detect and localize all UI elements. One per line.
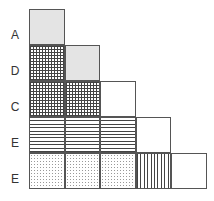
cell-c-1: [29, 81, 65, 117]
cell-e1-2: [65, 117, 101, 153]
cell-e2-1: [29, 153, 65, 189]
row-label-e-1: E: [8, 136, 22, 150]
row-label-a: A: [8, 28, 22, 42]
cell-a-1: [29, 9, 65, 45]
cell-e2-5: [171, 153, 207, 189]
cell-e1-1: [29, 117, 65, 153]
cell-e2-3: [100, 153, 136, 189]
row-label-c: C: [8, 100, 22, 114]
cell-e2-2: [65, 153, 101, 189]
cell-d-1: [29, 45, 65, 81]
row-label-d: D: [8, 64, 22, 78]
row-label-e-2: E: [8, 172, 22, 186]
cell-c-3: [100, 81, 136, 117]
cell-d-2: [65, 45, 101, 81]
cell-c-2: [65, 81, 101, 117]
cell-e2-4: [136, 153, 172, 189]
cell-e1-3: [100, 117, 136, 153]
cell-e1-4: [136, 117, 172, 153]
